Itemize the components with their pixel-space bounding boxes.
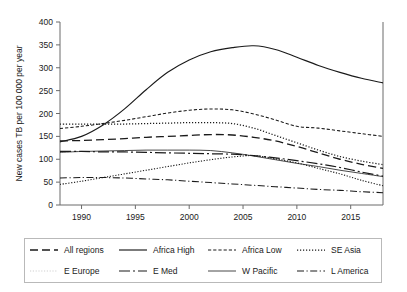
- legend-row: All regionsAfrica HighAfrica LowSE Asia: [25, 239, 381, 261]
- legend-label: All regions: [64, 245, 104, 255]
- legend-label: Africa High: [153, 245, 195, 255]
- legend-item-africa-high[interactable]: Africa High: [114, 245, 203, 255]
- x-tick-label: 1995: [126, 212, 145, 222]
- legend-label: SE Asia: [331, 245, 361, 255]
- legend-line-swatch: [118, 266, 148, 276]
- legend-line-swatch: [29, 245, 59, 255]
- y-tick-label: 150: [39, 131, 53, 141]
- legend-item-africa-low[interactable]: Africa Low: [203, 245, 292, 255]
- series-line-l-america: [60, 177, 383, 192]
- y-tick-label: 400: [39, 17, 53, 27]
- legend-label: E Europe: [64, 266, 99, 276]
- y-tick-label: 300: [39, 63, 53, 73]
- x-tick-label: 2015: [341, 212, 360, 222]
- legend-line-swatch: [207, 266, 237, 276]
- legend-item-se-asia[interactable]: SE Asia: [292, 245, 381, 255]
- x-tick-label: 2000: [180, 212, 199, 222]
- y-tick-label: 50: [44, 177, 54, 187]
- y-tick-label: 350: [39, 40, 53, 50]
- legend-line-swatch: [29, 266, 59, 276]
- legend-item-l-america[interactable]: L America: [292, 266, 381, 276]
- legend-item-all-regions[interactable]: All regions: [25, 245, 114, 255]
- legend-label: W Pacific: [242, 266, 277, 276]
- y-axis-title: New cases TB per 100 000 per year: [14, 45, 24, 181]
- legend-label: L America: [331, 266, 368, 276]
- x-tick-label: 2005: [234, 212, 253, 222]
- legend-line-swatch: [296, 245, 326, 255]
- series-line-e-europe: [60, 156, 383, 186]
- y-tick-label: 200: [39, 109, 53, 119]
- legend-line-swatch: [118, 245, 148, 255]
- legend-label: E Med: [153, 266, 178, 276]
- y-tick-label: 0: [48, 200, 53, 210]
- legend-line-swatch: [296, 266, 326, 276]
- legend-item-w-pacific[interactable]: W Pacific: [203, 266, 292, 276]
- legend-item-e-med[interactable]: E Med: [114, 266, 203, 276]
- y-tick-label: 100: [39, 154, 53, 164]
- legend-label: Africa Low: [242, 245, 282, 255]
- series-line-africa-low: [60, 109, 383, 136]
- plot-area: 0501001502002503003504001990199520002005…: [0, 0, 407, 228]
- legend-item-e-europe[interactable]: E Europe: [25, 266, 114, 276]
- x-tick-label: 2010: [287, 212, 306, 222]
- chart-figure: 0501001502002503003504001990199520002005…: [0, 0, 407, 292]
- series-line-africa-high: [60, 46, 383, 142]
- legend-line-swatch: [207, 245, 237, 255]
- chart-legend: All regionsAfrica HighAfrica LowSE AsiaE…: [24, 238, 382, 283]
- line-chart-svg: 0501001502002503003504001990199520002005…: [0, 0, 407, 228]
- y-tick-label: 250: [39, 86, 53, 96]
- x-tick-label: 1990: [72, 212, 91, 222]
- legend-row: E EuropeE MedW PacificL America: [25, 261, 381, 283]
